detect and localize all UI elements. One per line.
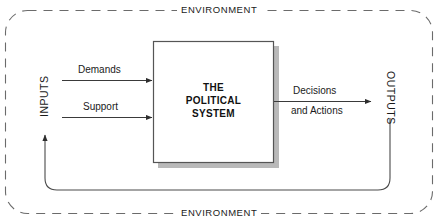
inputs-axis-label: INPUTS	[39, 75, 50, 117]
demands-label: Demands	[78, 65, 121, 76]
system-box-title-line3: SYSTEM	[153, 107, 274, 120]
system-box-title-line2: POLITICAL	[153, 94, 274, 107]
outputs-axis-label: OUTPUTS	[385, 71, 396, 125]
political-system-diagram: ENVIRONMENT ENVIRONMENT THE POLITICAL SY…	[0, 0, 438, 224]
system-box-title: THE POLITICAL SYSTEM	[153, 81, 274, 121]
environment-label-bottom: ENVIRONMENT	[177, 208, 261, 218]
support-label: Support	[83, 102, 118, 113]
system-box-title-line1: THE	[153, 81, 274, 94]
environment-label-top: ENVIRONMENT	[177, 5, 261, 15]
decisions-label: Decisions	[293, 86, 336, 97]
actions-label: and Actions	[291, 106, 343, 117]
